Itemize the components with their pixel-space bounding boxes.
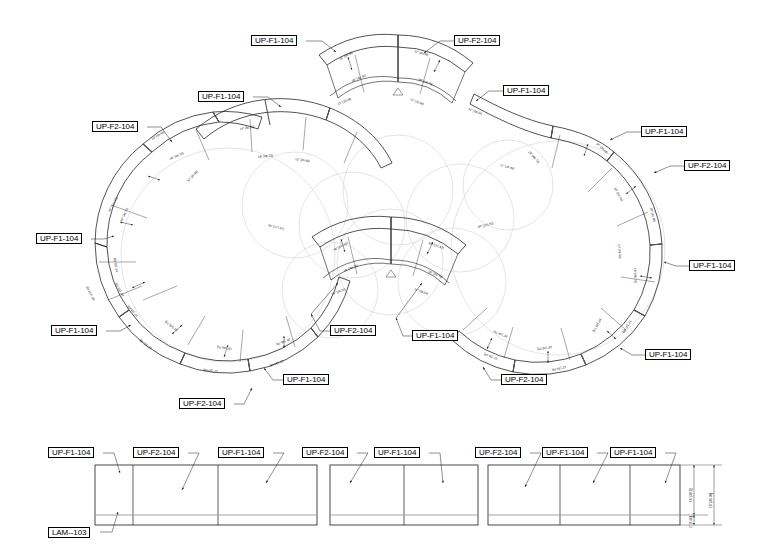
plan-tag-leader-12 [396,318,412,336]
svg-text:18" [46.70]: 18" [46.70] [114,282,125,297]
plan-tag-15[interactable]: UP-F2-104 [501,374,547,385]
elevation-block-1 [95,465,317,525]
elevation-tag-leader-2 [182,453,199,490]
tag-label: UP-F1-104 [287,375,325,384]
elevation-tag-6[interactable]: UP-F2-104 [475,447,521,458]
svg-text:12" [30.48]: 12" [30.48] [500,163,515,170]
plan-tag-3[interactable]: UP-F1-104 [198,91,244,102]
elevation-tag-leader-1 [103,453,120,473]
plan-tag-7[interactable]: UP-F2-104 [684,160,730,171]
elevation-tag-5[interactable]: UP-F1-104 [374,447,420,458]
plan-tag-11[interactable]: UP-F2-104 [330,325,376,336]
tag-label: UP-F1-104 [202,92,240,101]
svg-text:12" [30.48]: 12" [30.48] [339,51,354,61]
plan-tag-leader-4 [476,91,503,101]
construction-circles [121,135,665,362]
plan-tag-2[interactable]: UP-F2-104 [454,35,500,46]
svg-text:18" [46.70]: 18" [46.70] [592,318,603,333]
tag-label: UP-F2-104 [183,399,221,408]
svg-text:18" [46.70]: 18" [46.70] [633,268,638,283]
tag-label: UP-F1-104 [507,86,545,95]
elevation-tag-2[interactable]: UP-F2-104 [133,447,179,458]
svg-text:18" [46.70]: 18" [46.70] [537,345,553,351]
svg-text:10" [26.40]: 10" [26.40] [113,257,119,272]
elevation-block-2 [330,465,478,525]
svg-text:14" [36.30]: 14" [36.30] [239,125,254,131]
plan-tag-leader-9 [664,262,689,266]
svg-text:12" [30.48]: 12" [30.48] [552,365,567,372]
tag-label: UP-F1-104 [378,448,416,457]
plan-tag-6[interactable]: UP-F1-104 [641,126,687,137]
elevation-tag-3[interactable]: UP-F1-104 [218,447,264,458]
svg-text:10" [26.40]: 10" [26.40] [617,244,622,259]
tag-label: UP-F1-104 [546,448,584,457]
elevation-tag-4[interactable]: UP-F2-104 [302,447,348,458]
svg-text:18" [46.70]: 18" [46.70] [164,320,178,333]
svg-text:48" [121.92]: 48" [121.92] [477,221,494,229]
svg-text:18" [46.70]: 18" [46.70] [217,345,233,351]
plan-tag-16[interactable]: UP-F2-104 [179,398,225,409]
plan-tag-1[interactable]: UP-F1-104 [251,35,297,46]
svg-text:48" [121.92]: 48" [121.92] [85,285,96,301]
tag-label: UP-F1-104 [222,448,260,457]
plan-tag-leader-8 [91,236,114,239]
drawing-sheet: 48" [121.92] 18" [46.70] 48" [121.92] 18… [0,0,757,550]
tag-label: UP-F2-104 [505,375,543,384]
plan-tag-10[interactable]: UP-F1-104 [51,325,97,336]
plan-tag-5[interactable]: UP-F2-104 [92,121,138,132]
svg-text:12" [30.48]: 12" [30.48] [483,352,498,361]
tag-label: UP-F1-104 [649,350,687,359]
tag-label: UP-F1-104 [614,448,652,457]
svg-text:14" [36.30]: 14" [36.30] [468,107,483,116]
elevation-tag-leader-3 [266,453,284,483]
plan-tag-leader-14 [264,368,283,380]
tag-label: UP-F2-104 [334,326,372,335]
plan-tag-leader-1 [306,41,336,52]
tag-label: UP-F2-104 [137,448,175,457]
plan-tag-9[interactable]: UP-F1-104 [689,260,735,271]
elevation-tag-leader-7 [593,453,608,483]
tag-label: UP-F1-104 [52,448,90,457]
plan-top-center-arc [319,34,473,103]
plan-right-ring [452,94,662,374]
plan-tag-leader-6 [610,132,641,140]
plan-tag-12[interactable]: UP-F1-104 [412,330,458,341]
svg-text:48" [121.92]: 48" [121.92] [268,223,285,231]
plan-tag-8[interactable]: UP-F1-104 [36,233,82,244]
svg-text:18" [46.70]: 18" [46.70] [351,74,367,83]
tag-label: UP-F1-104 [55,326,93,335]
svg-text:12" [30.48]: 12" [30.48] [410,97,425,106]
plan-tag-leader-13 [620,348,645,355]
plan-tag-14[interactable]: UP-F1-104 [283,374,329,385]
plan-tag-13[interactable]: UP-F1-104 [645,349,691,360]
svg-text:12" [30.48]: 12" [30.48] [186,169,199,182]
tag-label: UP-F1-104 [416,331,454,340]
elevation-tag-9[interactable]: LAM--103 [48,527,90,538]
svg-text:12" [30.48]: 12" [30.48] [414,49,429,57]
svg-text:12" [30.48]: 12" [30.48] [295,157,310,163]
elevation-tag-8[interactable]: UP-F1-104 [610,447,656,458]
plan-tag-4[interactable]: UP-F1-104 [503,85,549,96]
tag-label: UP-F2-104 [479,448,517,457]
svg-text:18" [46.70]: 18" [46.70] [169,151,185,161]
tag-label: UP-F2-104 [306,448,344,457]
svg-text:12" [30.48]: 12" [30.48] [139,338,153,350]
plan-tag-leader-16 [234,388,252,404]
tag-label: UP-F1-104 [645,127,683,136]
elevation-tag-leader-4 [350,453,368,483]
svg-text:14" [36.30]: 14" [36.30] [414,287,429,296]
tag-label: UP-F2-104 [688,161,726,170]
svg-text:12" [30.48]: 12" [30.48] [337,97,352,106]
elevation-tag-7[interactable]: UP-F1-104 [542,447,588,458]
svg-text:2" [7.34]: 2" [7.34] [689,516,693,528]
svg-text:18" [46.70]: 18" [46.70] [119,207,129,222]
tag-label: UP-F1-104 [255,36,293,45]
elevation-block-3 [488,465,680,525]
svg-text:48" [121.92]: 48" [121.92] [107,196,118,212]
elevation-tag-1[interactable]: UP-F1-104 [48,447,94,458]
svg-text:18" [46.70]: 18" [46.70] [418,77,434,86]
elevation-tag-leader-8 [665,453,676,483]
plan-tag-leader-7 [654,166,684,173]
tag-label: UP-F1-104 [693,261,731,270]
svg-text:18" [46.70]: 18" [46.70] [709,493,713,508]
